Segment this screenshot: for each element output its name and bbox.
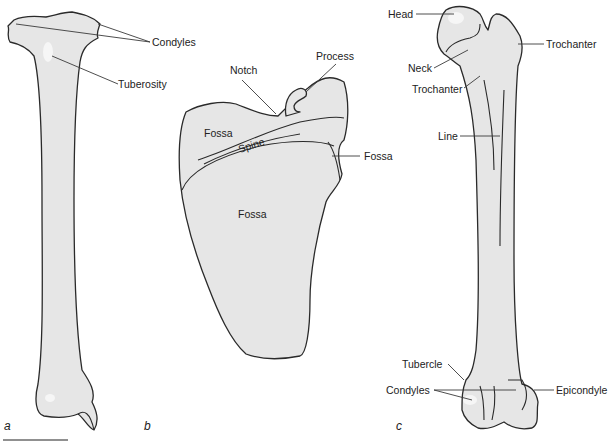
panel-c-femur: Head Trochanter Neck Trochanter Line Tub…: [386, 7, 608, 433]
label-head: Head: [388, 8, 413, 20]
label-condyles-a: Condyles: [152, 36, 196, 48]
label-glenoid-fossa: Fossa: [364, 150, 393, 162]
tibia-bone: [8, 12, 100, 430]
label-line: Line: [438, 130, 458, 142]
panel-b-scapula: Notch Process Fossa Spine Fossa Fossa b: [144, 50, 393, 433]
femur-bone: [437, 7, 538, 429]
panel-label-b: b: [144, 419, 151, 433]
label-supraspinous-fossa: Fossa: [204, 127, 233, 139]
panel-a-tibia: Condyles Tuberosity a: [3, 12, 196, 440]
label-neck: Neck: [408, 62, 433, 74]
label-tubercle: Tubercle: [402, 358, 443, 370]
label-epicondyle: Epicondyle: [556, 384, 608, 396]
label-process: Process: [316, 50, 354, 62]
panel-label-c: c: [396, 419, 402, 433]
label-lesser-trochanter: Trochanter: [412, 83, 463, 95]
label-tuberosity: Tuberosity: [118, 78, 167, 90]
label-infraspinous-fossa: Fossa: [238, 208, 267, 220]
label-condyles-c: Condyles: [386, 384, 430, 396]
panel-label-a: a: [4, 419, 11, 433]
label-greater-trochanter: Trochanter: [546, 38, 597, 50]
label-notch: Notch: [230, 64, 258, 76]
anatomy-figure: Condyles Tuberosity a Notch Process Foss…: [0, 0, 611, 444]
